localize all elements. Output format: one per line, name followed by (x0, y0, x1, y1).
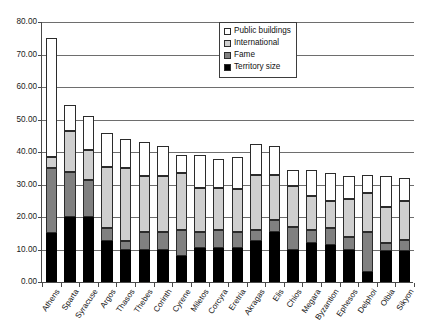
bar-segment (362, 193, 374, 232)
bar-segment (176, 155, 188, 173)
bar-segment (83, 150, 95, 179)
x-tick-mark (79, 283, 80, 287)
bar-segment (325, 201, 337, 229)
legend-label: Territory size (234, 63, 280, 71)
bar-segment (306, 243, 318, 282)
x-tick-label: Corinth (152, 288, 173, 314)
y-tick-label: 60.00 (0, 83, 37, 91)
x-tick-mark (209, 283, 210, 287)
bar-segment (139, 142, 151, 176)
x-tick-mark (265, 283, 266, 287)
x-tick-mark (61, 283, 62, 287)
bar-group (194, 22, 206, 282)
bar-segment (157, 176, 169, 231)
y-tick-label: 0.00 (0, 278, 37, 286)
y-tick-label: 10.00 (0, 245, 37, 253)
legend-item: Fame (224, 50, 291, 61)
bar-group (120, 22, 132, 282)
bar-segment (64, 217, 76, 282)
bar-segment (306, 196, 318, 230)
bar-group (139, 22, 151, 282)
bar-segment (399, 201, 411, 240)
bar-segment (194, 232, 206, 248)
legend-swatch-icon (224, 40, 231, 47)
bar-segment (139, 250, 151, 283)
bar-segment (380, 251, 392, 282)
bar-segment (250, 241, 262, 282)
x-tick-mark (414, 283, 415, 287)
x-tick-mark (284, 283, 285, 287)
bar-segment (157, 250, 169, 283)
x-tick-mark (191, 283, 192, 287)
bar-segment (380, 176, 392, 207)
bar-group (325, 22, 337, 282)
y-tick-label: 30.00 (0, 180, 37, 188)
bar-segment (269, 175, 281, 221)
x-tick-label: Elis (271, 288, 285, 303)
bar-segment (306, 230, 318, 243)
bar-segment (269, 146, 281, 175)
bar-segment (250, 175, 262, 230)
bar-segment (380, 243, 392, 251)
y-tick-label: 20.00 (0, 213, 37, 221)
y-tick-label: 80.00 (0, 18, 37, 26)
x-tick-mark (172, 283, 173, 287)
bar-group (380, 22, 392, 282)
x-tick-mark (135, 283, 136, 287)
bar-segment (343, 176, 355, 199)
x-tick-mark (302, 283, 303, 287)
bar-segment (83, 180, 95, 217)
bar-segment (139, 176, 151, 231)
bar-segment (250, 230, 262, 241)
x-tick-mark (358, 283, 359, 287)
x-tick-mark (321, 283, 322, 287)
bar-segment (46, 233, 58, 282)
x-tick-label: Cyrene (171, 288, 192, 314)
stacked-bar-chart: 0.0010.0020.0030.0040.0050.0060.0070.008… (0, 0, 423, 335)
bar-segment (325, 228, 337, 244)
bar-segment (46, 38, 58, 157)
x-axis-labels: AthensSpartaSyracuseArgosThasosThebesCor… (41, 288, 423, 335)
legend-swatch-icon (224, 64, 231, 71)
legend-item: Territory size (224, 62, 291, 73)
bar-group (64, 22, 76, 282)
x-tick-label: Athens (41, 288, 62, 313)
bar-segment (120, 168, 132, 241)
bar-segment (232, 189, 244, 231)
bar-group (399, 22, 411, 282)
legend-item: Public buildings (224, 26, 291, 37)
bar-segment (64, 172, 76, 218)
bar-segment (120, 139, 132, 168)
x-tick-mark (247, 283, 248, 287)
bar-segment (194, 188, 206, 232)
x-tick-label: Sikyon (395, 288, 415, 312)
bar-segment (64, 131, 76, 172)
bar-segment (157, 232, 169, 250)
bar-segment (287, 170, 299, 186)
bar-segment (120, 250, 132, 283)
bar-segment (101, 228, 113, 241)
bar-group (83, 22, 95, 282)
bar-group (157, 22, 169, 282)
x-tick-label: Olbia (380, 288, 397, 308)
bar-segment (287, 227, 299, 250)
bar-segment (83, 116, 95, 150)
bar-segment (176, 256, 188, 282)
bar-segment (343, 250, 355, 283)
bar-segment (287, 186, 299, 227)
bar-segment (120, 241, 132, 249)
bar-segment (213, 159, 225, 188)
bar-segment (101, 167, 113, 229)
bar-segment (325, 245, 337, 282)
bar-segment (46, 157, 58, 168)
bar-segment (232, 157, 244, 190)
bar-segment (399, 251, 411, 282)
bar-segment (343, 237, 355, 250)
bar-segment (232, 232, 244, 248)
bar-segment (380, 207, 392, 243)
bar-segment (213, 248, 225, 282)
bar-segment (213, 188, 225, 230)
bar-group (176, 22, 188, 282)
y-tick-label: 40.00 (0, 148, 37, 156)
bar-segment (83, 217, 95, 282)
